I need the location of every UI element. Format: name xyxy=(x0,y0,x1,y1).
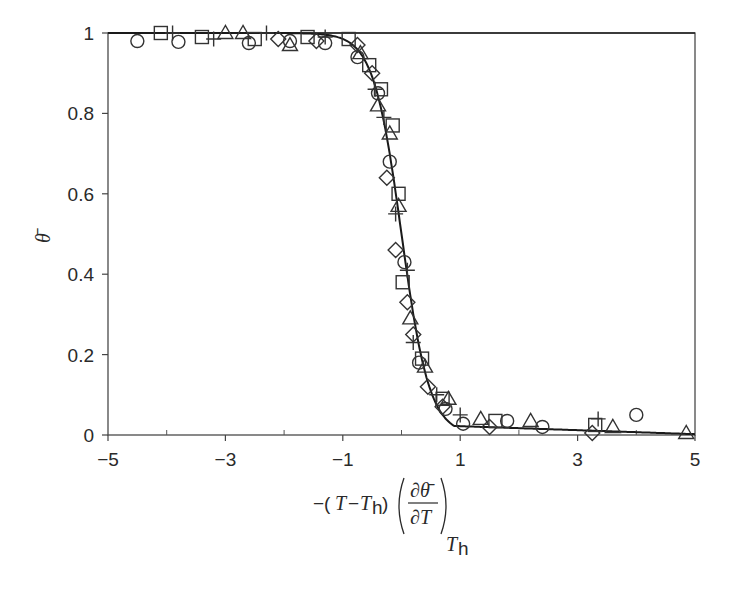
circle-marker xyxy=(131,35,144,48)
plus-marker xyxy=(453,407,468,422)
plus-marker xyxy=(368,82,383,97)
svg-text:−: − xyxy=(348,493,359,514)
scatter-chart: −5−3−1135 00.20.40.60.81 θ̄ −( T − T h )… xyxy=(0,0,732,591)
x-tick-label: −1 xyxy=(332,449,354,470)
svg-text:∂θ̄: ∂θ̄ xyxy=(410,479,435,501)
y-axis: 00.20.40.60.81 xyxy=(68,23,108,446)
series-triangles xyxy=(218,26,694,439)
y-tick-label: 0 xyxy=(83,425,94,446)
data-markers xyxy=(131,26,694,441)
y-tick-label: 1 xyxy=(83,23,94,44)
plus-marker xyxy=(318,30,333,45)
x-tick-label: 3 xyxy=(572,449,583,470)
svg-text:): ) xyxy=(382,493,388,514)
x-axis: −5−3−1135 xyxy=(97,430,700,470)
plus-marker xyxy=(388,206,403,221)
fit-curve xyxy=(108,33,695,434)
svg-text:h: h xyxy=(458,538,469,559)
svg-text:θ̄: θ̄ xyxy=(32,228,54,243)
svg-text:h: h xyxy=(372,497,383,518)
series-crosses xyxy=(165,26,606,427)
diamond-marker xyxy=(388,243,403,258)
diamond-marker xyxy=(585,425,600,440)
x-tick-label: −5 xyxy=(97,449,119,470)
y-tick-label: 0.6 xyxy=(68,184,94,205)
svg-text:∂T: ∂T xyxy=(410,506,433,528)
y-tick-label: 0.4 xyxy=(68,264,95,285)
svg-text:T: T xyxy=(335,492,348,514)
y-tick-label: 0.8 xyxy=(68,103,94,124)
circle-marker xyxy=(630,408,643,421)
x-tick-label: 5 xyxy=(690,449,701,470)
y-axis-label: θ̄ xyxy=(32,228,54,243)
svg-text:−(: −( xyxy=(313,493,331,514)
series-diamonds xyxy=(271,32,600,441)
triangle-marker xyxy=(679,425,694,438)
circle-marker xyxy=(172,35,185,48)
y-tick-label: 0.2 xyxy=(68,345,94,366)
square-marker xyxy=(589,418,602,431)
x-tick-label: 1 xyxy=(455,449,466,470)
x-tick-label: −3 xyxy=(215,449,237,470)
diamond-marker xyxy=(309,34,324,49)
plus-marker xyxy=(376,110,391,125)
circle-marker xyxy=(457,417,470,430)
plus-marker xyxy=(591,411,606,426)
x-axis-label: −( T − T h ) ∂θ̄ ∂T T h xyxy=(313,478,469,559)
